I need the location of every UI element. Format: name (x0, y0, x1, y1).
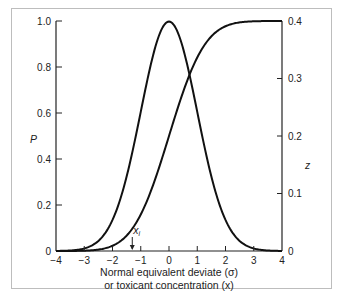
y-left-tick-label: 0.2 (37, 200, 51, 211)
y-right-tick-label: 0.2 (288, 131, 302, 142)
y-left-tick-label: 0.4 (37, 154, 51, 165)
x-tick-label: −1 (135, 255, 147, 266)
x-tick-label: −3 (79, 255, 91, 266)
y-left-tick-label: 0.6 (37, 108, 51, 119)
y-right-tick-label: 0.3 (288, 73, 302, 84)
chart: −4−3−2−10123400.20.40.60.81.000.10.20.30… (0, 0, 344, 298)
annotation-arrow-head (130, 245, 135, 250)
x-tick-label: 1 (194, 255, 200, 266)
y-left-tick-label: 0.8 (37, 62, 51, 73)
annotations: xi (130, 224, 141, 250)
x-axis-title-line2: or toxicant concentration (x) (104, 279, 234, 291)
y-right-tick-label: 0.1 (288, 188, 302, 199)
y-left-axis-title: P (30, 133, 37, 145)
x-tick-label: 0 (166, 255, 172, 266)
x-tick-label: 4 (279, 255, 285, 266)
y-right-axis-title: z (304, 159, 311, 171)
x-tick-label: −2 (107, 255, 119, 266)
y-right-tick-label: 0.4 (288, 16, 302, 27)
series-line-cumulative-p (56, 21, 282, 251)
x-tick-label: −4 (50, 255, 62, 266)
y-right-tick-label: 0 (288, 246, 294, 257)
x-tick-label: 3 (251, 255, 257, 266)
x-tick-label: 2 (223, 255, 229, 266)
curves (56, 21, 282, 251)
x-axis-title-line1: Normal equivalent deviate (σ) (100, 266, 238, 278)
ticks: −4−3−2−10123400.20.40.60.81.000.10.20.30… (37, 16, 302, 267)
y-left-tick-label: 0 (45, 246, 51, 257)
annotation-label: xi (132, 224, 140, 237)
y-left-tick-label: 1.0 (37, 16, 51, 27)
